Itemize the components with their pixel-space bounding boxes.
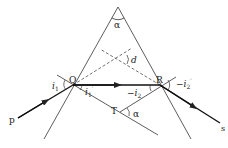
dashed-extension-incident [73, 48, 132, 85]
deviation-arc [127, 55, 129, 64]
label-q: Q [69, 75, 76, 85]
label-minus-i2-prime: −i2′ [176, 77, 192, 90]
label-apex-alpha: α [114, 20, 120, 30]
incident-ray-arrow [18, 101, 46, 118]
label-t: T [111, 106, 117, 116]
prism-left-face [44, 7, 118, 139]
prism-right-face [118, 7, 191, 139]
label-d: d [131, 55, 137, 65]
angle-arc-alpha-at-t [127, 108, 129, 116]
angle-arc-minus-i2 [150, 85, 151, 91]
label-s: s [221, 124, 225, 133]
angle-arc-i1 [64, 80, 66, 90]
label-alpha-at-t: α [133, 109, 139, 119]
label-r: R [156, 75, 163, 85]
prism-diagram: α d Q R T p s α i1 i1′ −i2 −i2′ [0, 0, 228, 148]
label-i1: i1 [52, 81, 59, 92]
label-p: p [9, 115, 15, 125]
label-minus-i2: −i2 [127, 88, 141, 99]
